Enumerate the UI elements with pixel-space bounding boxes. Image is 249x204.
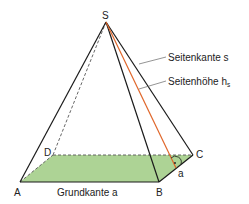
leader-seitenkante <box>139 57 166 64</box>
label-seitenkante: Seitenkante s <box>168 52 229 63</box>
leader-seitenhoehe <box>139 81 166 89</box>
pyramid-diagram: S A B C D Seitenkante s Seitenhöhe hs Gr… <box>0 0 249 204</box>
vertex-label-c: C <box>196 149 203 160</box>
slant-height-line <box>106 22 176 168</box>
label-grundkante: Grundkante a <box>57 187 118 198</box>
vertex-label-s: S <box>102 10 109 21</box>
label-edge-a: a <box>178 168 184 179</box>
vertex-label-d: D <box>44 147 51 158</box>
pyramid-figure: S A B C D Seitenkante s Seitenhöhe hs Gr… <box>0 0 249 204</box>
edge-sc <box>106 22 193 155</box>
label-seitenhoehe: Seitenhöhe hs <box>168 76 231 88</box>
vertex-label-b: B <box>156 187 163 198</box>
hidden-edge-sd <box>53 22 106 155</box>
vertex-label-a: A <box>14 187 21 198</box>
right-angle-dot <box>174 162 176 164</box>
base-face <box>20 155 193 182</box>
